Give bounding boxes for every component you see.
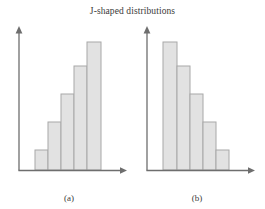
bar-b-5	[216, 150, 229, 170]
bar-a-5	[87, 42, 101, 170]
chart-a-bars	[35, 42, 101, 170]
bar-b-1	[163, 42, 177, 170]
panel-b-caption: (b)	[136, 193, 258, 203]
chart-panel-a: (a)	[8, 22, 130, 209]
bar-b-4	[203, 122, 216, 170]
panel-a-caption: (a)	[8, 193, 130, 203]
bar-a-1	[35, 150, 48, 170]
y-axis-arrow-b	[144, 26, 151, 34]
bar-a-2	[48, 122, 61, 170]
x-axis-arrow-a	[120, 167, 127, 173]
bar-b-3	[190, 94, 203, 170]
chart-panel-b: (b)	[136, 22, 258, 209]
figure-container: J-shaped distributions (a)	[0, 0, 265, 209]
figure-title: J-shaped distributions	[0, 6, 265, 16]
bar-a-3	[61, 94, 74, 170]
y-axis-arrow-a	[16, 26, 23, 34]
chart-a-plot	[8, 22, 130, 187]
bar-a-4	[74, 66, 87, 170]
bar-b-2	[177, 66, 190, 170]
chart-b-bars	[163, 42, 229, 170]
x-axis-arrow-b	[248, 167, 255, 173]
chart-b-plot	[136, 22, 258, 187]
